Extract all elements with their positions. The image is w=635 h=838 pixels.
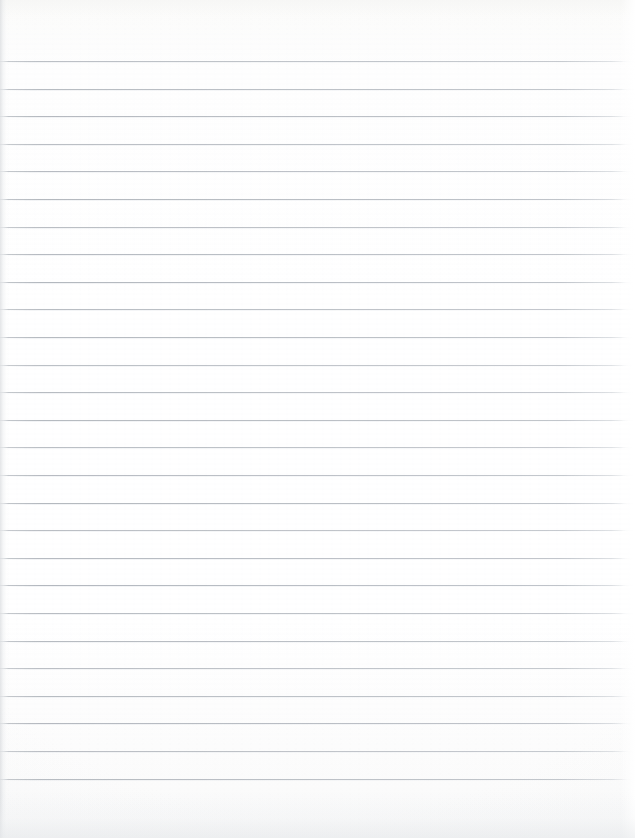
writing-area[interactable]: [0, 0, 635, 838]
notebook-page-scan: [0, 0, 635, 838]
